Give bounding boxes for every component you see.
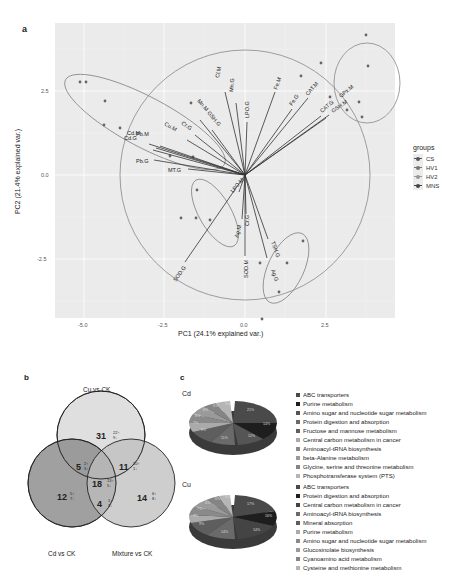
svg-text:14%: 14% (253, 528, 260, 532)
region-all: 18 (92, 479, 102, 489)
cu-legend-item: Aminoacyl-tRNA biosynthesis (296, 509, 426, 518)
cu-legend-item: Glucosinolate biosynthesis (296, 545, 426, 554)
pie-cu-legend: ABC transporters Protein digestion and a… (296, 482, 426, 572)
cd-legend-item: Fructose and mannose metabolism (296, 426, 426, 435)
region-cu-only-updown: 22↑9↓ (113, 430, 119, 440)
swatch-icon (296, 485, 300, 489)
region-cd-only: 12 (57, 492, 67, 502)
svg-text:9%: 9% (199, 522, 204, 526)
svg-text:9%: 9% (201, 428, 206, 432)
cu-legend-item: Cyanoamino acid metabolism (296, 554, 426, 563)
swatch-icon (296, 393, 300, 397)
cu-legend-item: Central carbon metabolism in cancer (296, 500, 426, 509)
svg-text:11%: 11% (221, 436, 228, 440)
legend-item-mns: MNS (413, 181, 439, 190)
region-cu-cd: 5 (76, 462, 81, 472)
xtick--5.0: -5.0 (78, 322, 87, 328)
cd-legend-item: Phosphotransferase system (PTS) (296, 471, 426, 480)
svg-text:Pb.M: Pb.M (136, 131, 149, 137)
swatch-icon (296, 447, 300, 451)
svg-text:6%: 6% (213, 404, 218, 408)
cd-legend-item: Aminoacyl-tRNA biosynthesis (296, 444, 426, 453)
swatch-icon (296, 557, 300, 561)
swatch-icon (296, 494, 300, 498)
svg-text:MT.G: MT.G (168, 167, 181, 173)
svg-text:6%: 6% (205, 501, 210, 505)
svg-text:LPO.G: LPO.G (244, 101, 250, 118)
cd-legend-item: beta-Alanine metabolism (296, 453, 426, 462)
cu-legend-item: Cysteine and methionine metabolism (296, 563, 426, 572)
swatch-icon (296, 438, 300, 442)
cu-legend-item: ABC transporters (296, 482, 426, 491)
legend-item-cs: CS (413, 154, 439, 163)
svg-text:Pb.G: Pb.G (136, 158, 149, 164)
pie-cd-legend: ABC transporters Purine metabolism Amino… (296, 390, 426, 480)
region-mix-only-updown: 6↑8↓ (152, 491, 156, 501)
ytick-2.5: 2.5 (41, 88, 49, 94)
swatch-icon (296, 548, 300, 552)
cd-legend-item: Central carbon metabolism in cancer (296, 435, 426, 444)
legend-item-hv1: HV1 (413, 163, 439, 172)
svg-text:16%: 16% (265, 514, 272, 518)
region-cd-only-updown: 5↑7↓ (70, 491, 74, 501)
svg-text:14%: 14% (263, 422, 270, 426)
swatch-icon (296, 521, 300, 525)
svg-text:6%: 6% (225, 495, 230, 499)
region-cu-mix-updown: 10↑1↓ (133, 461, 139, 471)
swatch-icon (296, 429, 300, 433)
y-axis-label: PC2 (21.4% explained var.) (14, 129, 21, 214)
cd-legend-item: Amino sugar and nucleotide sugar metabol… (296, 408, 426, 417)
xtick--2.5: -2.5 (158, 322, 167, 328)
svg-text:SOD.M: SOD.M (243, 260, 249, 278)
region-cu-only: 31 (96, 431, 106, 441)
cu-legend-item: Amino sugar and nucleotide sugar metabol… (296, 536, 426, 545)
venn-label-cd: Cd vs CK (48, 550, 75, 557)
swatch-icon (296, 539, 300, 543)
mns-key-icon (413, 181, 423, 190)
ytick-0.0: 0.0 (41, 172, 49, 178)
cd-legend-item: Glycine, serine and threonine metabolism (296, 462, 426, 471)
svg-text:Cd.G: Cd.G (124, 135, 137, 141)
xtick-2.5: 2.5 (321, 322, 329, 328)
swatch-icon (296, 420, 300, 424)
cd-legend-item: ABC transporters (296, 390, 426, 399)
region-cu-mix: 11 (119, 462, 129, 472)
legend-item-hv2: HV2 (413, 172, 439, 181)
svg-text:6%: 6% (203, 408, 208, 412)
region-mix-only: 14 (137, 493, 147, 503)
swatch-icon (296, 474, 300, 478)
panel-c-label: c (180, 373, 184, 382)
cd-legend-item: Protein digestion and absorption (296, 417, 426, 426)
pie-chart-cd: 21%14% 12%11% 9%7% 8%6% 6%6% (186, 396, 281, 461)
region-cu-cd-updown: 2↑3↓ (84, 461, 88, 471)
svg-text:6%: 6% (225, 402, 230, 406)
svg-text:6%: 6% (215, 497, 220, 501)
pca-biplot: Cl.M Mn.G LPO.G Fe.M Fe.G CAT.M CAT.G GP… (0, 0, 459, 370)
ytick--2.5: -2.5 (37, 256, 46, 262)
swatch-icon (296, 411, 300, 415)
swatch-icon (296, 512, 300, 516)
swatch-icon (296, 566, 300, 570)
cd-legend-item: Purine metabolism (296, 399, 426, 408)
svg-text:7%: 7% (193, 514, 198, 518)
groups-legend-title: groups (413, 144, 439, 151)
venn-label-cu: Cu vs CK (83, 386, 110, 393)
svg-text:7%: 7% (193, 421, 198, 425)
groups-legend: groups CS HV1 HV2 MNS (413, 144, 439, 190)
x-axis-label: PC1 (24.1% explained var.) (178, 330, 263, 337)
swatch-icon (296, 456, 300, 460)
swatch-icon (296, 465, 300, 469)
cu-legend-item: Purine metabolism (296, 527, 426, 536)
venn-diagram (0, 380, 190, 565)
svg-text:21%: 21% (247, 408, 254, 412)
hv1-key-icon (413, 163, 423, 172)
hv2-key-icon (413, 172, 423, 181)
svg-text:17%: 17% (247, 502, 254, 506)
pie-chart-cu: 17%16% 14%14% 9%7% 7%6% 6%6% (186, 490, 281, 555)
svg-text:7%: 7% (197, 507, 202, 511)
region-cd-mix: 4 (97, 499, 102, 509)
svg-text:8%: 8% (195, 414, 200, 418)
cu-legend-item: Mineral absorption (296, 518, 426, 527)
region-cd-mix-updown: 1↑3↓ (108, 498, 112, 508)
cu-legend-item: Protein digestion and absorption (296, 491, 426, 500)
